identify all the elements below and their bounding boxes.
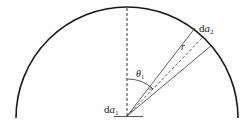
label-r: r [181,41,185,52]
label-theta1: θ1 [136,68,144,80]
label-da1: da1 [104,103,119,117]
hemisphere-diagram: da2 r θ1 da1 [0,0,248,126]
label-da2: da2 [199,22,214,36]
